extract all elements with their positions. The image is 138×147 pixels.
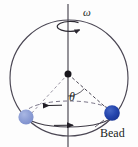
radius-line-to-faded-bead	[30, 74, 68, 115]
bead-on-rotating-hoop-svg: ω θ Bead	[0, 0, 138, 147]
bead-faded	[18, 109, 33, 124]
pivot-point	[65, 71, 72, 78]
bead-label: Bead	[100, 126, 125, 140]
physics-diagram-figure: ω θ Bead	[0, 0, 138, 147]
omega-label: ω	[83, 6, 91, 18]
theta-label: θ	[69, 90, 75, 104]
bead-solid	[104, 105, 120, 121]
